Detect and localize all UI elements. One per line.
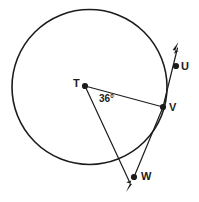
point-U-dot (173, 63, 179, 69)
point-label-V: V (169, 102, 176, 113)
point-label-T: T (73, 78, 80, 89)
point-V-dot (160, 104, 166, 110)
angle-measure-label: 36° (99, 94, 114, 104)
point-W-dot (131, 174, 137, 180)
arrowhead-TW-icon (126, 181, 132, 192)
segment-TV (85, 86, 163, 107)
point-label-U: U (181, 61, 189, 72)
point-T-dot (82, 83, 88, 89)
segment-VW (134, 107, 163, 177)
point-label-W: W (141, 171, 151, 182)
geometry-diagram: T U V W 36° (0, 0, 199, 202)
ray-VU (163, 48, 178, 107)
